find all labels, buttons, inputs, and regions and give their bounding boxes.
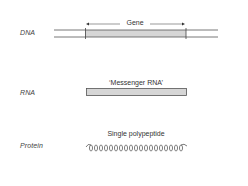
diagram-graphics <box>0 0 248 186</box>
dna-strand <box>54 28 218 39</box>
gene-label: Gene <box>120 19 150 26</box>
arrow-left-icon <box>86 23 89 26</box>
messenger-rna-bar <box>87 89 187 96</box>
polypeptide-coil <box>86 144 187 151</box>
gene-region <box>85 30 186 37</box>
arrow-right-icon <box>182 23 185 26</box>
